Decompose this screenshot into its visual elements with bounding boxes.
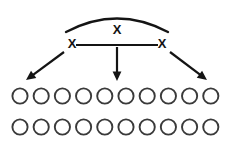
diagram-svg: X XX [0, 0, 231, 146]
unit-circle [55, 88, 70, 103]
arrow-group [26, 47, 207, 81]
unit-circle [34, 119, 49, 134]
unit-circle [161, 119, 176, 134]
unit-circle [203, 119, 218, 134]
unit-circle [55, 119, 70, 134]
right-node: X [158, 36, 167, 51]
unit-circle [140, 119, 155, 134]
unit-circle [140, 88, 155, 103]
diagram-canvas: X XX [0, 0, 231, 146]
unit-circle [182, 119, 197, 134]
arrow-left-head-icon [26, 71, 36, 80]
unit-circle [161, 88, 176, 103]
arrow-left [26, 52, 64, 80]
arrow-right [170, 52, 207, 80]
unit-circle [182, 88, 197, 103]
row-top [12, 88, 218, 103]
unit-circle [76, 88, 91, 103]
unit-circle [118, 88, 133, 103]
unit-circle [12, 88, 27, 103]
unit-circle [97, 88, 112, 103]
unit-circle [97, 119, 112, 134]
arrow-middle [113, 47, 122, 81]
arrow-right-shaft [170, 52, 201, 75]
arrow-left-shaft [32, 52, 64, 76]
arrow-middle-head-icon [113, 72, 122, 82]
unit-circle [203, 88, 218, 103]
left-node: X [68, 36, 77, 51]
circle-rows-group [12, 88, 218, 134]
unit-circle [118, 119, 133, 134]
unit-circle [34, 88, 49, 103]
arc-group: X [66, 19, 168, 38]
unit-circle [76, 119, 91, 134]
row-bottom [12, 119, 218, 134]
unit-circle [12, 119, 27, 134]
arc-label: X [113, 22, 122, 37]
